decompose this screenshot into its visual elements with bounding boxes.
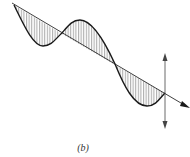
hatched-region <box>0 0 190 157</box>
figure-caption: (b) <box>0 142 166 153</box>
wave-diagram <box>0 0 190 157</box>
propagation-axis <box>12 3 186 106</box>
axis-arrowhead-icon <box>180 101 190 108</box>
oscillation-double-arrow-icon <box>163 53 168 129</box>
